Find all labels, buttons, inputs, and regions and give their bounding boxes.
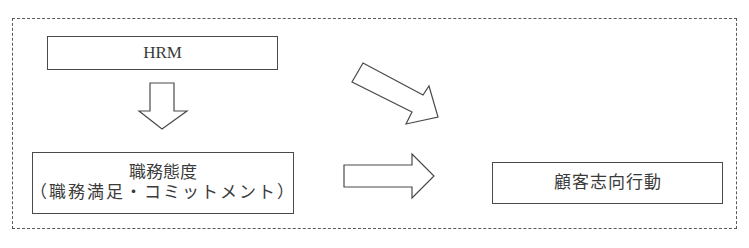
- diagonal-arrow-icon: [352, 63, 438, 124]
- right-arrow-icon: [344, 154, 434, 198]
- arrows-layer: [0, 0, 749, 248]
- down-arrow-icon: [139, 83, 187, 129]
